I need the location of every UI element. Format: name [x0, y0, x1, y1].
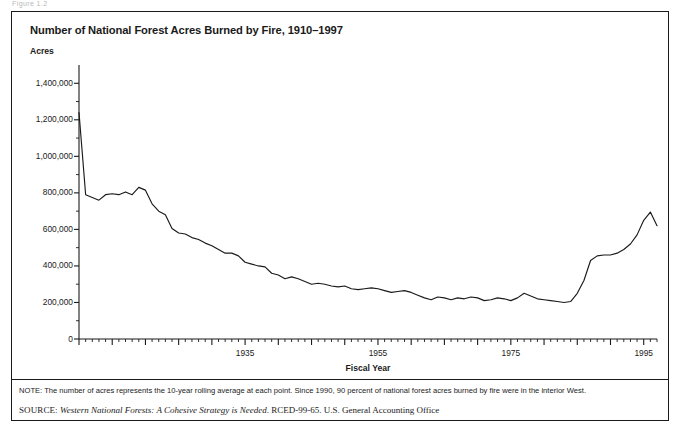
x-tick-label: 1935: [225, 348, 265, 358]
source-text: SOURCE: Western National Forests: A Cohe…: [19, 404, 439, 416]
plot-area: 0200,000400,000600,000800,0001,000,0001,…: [12, 12, 670, 422]
x-tick-label: 1995: [624, 348, 664, 358]
y-tick-label: 800,000: [17, 187, 73, 197]
axis-lines: [79, 65, 657, 339]
x-axis-ticks: [79, 339, 657, 345]
x-axis-title: Fiscal Year: [318, 363, 418, 373]
source-detail: . RCED-99-65. U.S. General Accounting Of…: [267, 405, 440, 415]
source-label: SOURCE:: [19, 405, 58, 415]
figure-frame: Number of National Forest Acres Burned b…: [11, 11, 669, 421]
x-tick-label: 1975: [491, 348, 531, 358]
data-series-line: [79, 112, 657, 302]
chart-canvas: [12, 12, 670, 372]
y-tick-label: 1,400,000: [17, 78, 73, 88]
source-document-title: Western National Forests: A Cohesive Str…: [60, 405, 267, 415]
y-tick-label: 1,000,000: [17, 151, 73, 161]
y-tick-label: 400,000: [17, 260, 73, 270]
y-tick-label: 600,000: [17, 224, 73, 234]
x-tick-label: 1955: [358, 348, 398, 358]
figure-number-crumb: Figure 1.2: [12, 0, 48, 7]
y-tick-label: 200,000: [17, 297, 73, 307]
y-tick-label: 0: [17, 334, 73, 344]
footer-divider: [12, 379, 668, 380]
y-tick-label: 1,200,000: [17, 114, 73, 124]
note-text: NOTE: The number of acres represents the…: [19, 385, 586, 396]
y-axis-ticks: [74, 83, 79, 339]
